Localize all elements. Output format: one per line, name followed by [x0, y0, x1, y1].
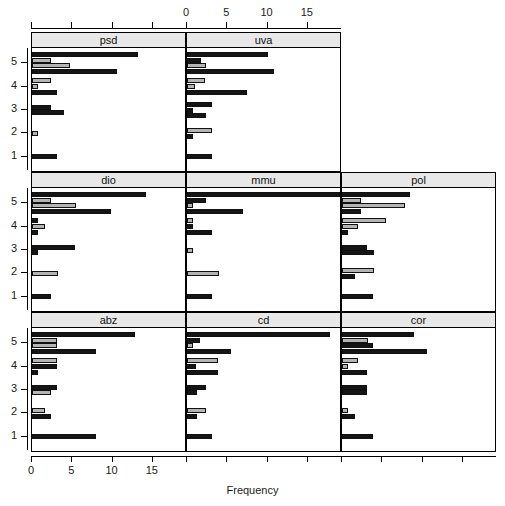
bar — [187, 108, 193, 113]
bar — [32, 271, 58, 276]
panel-plot-psd — [31, 48, 186, 172]
y-tick-label: 5 — [0, 195, 17, 207]
bar — [342, 192, 410, 197]
panel-strip-dio: dio — [31, 172, 186, 188]
y-tickmark — [21, 249, 27, 250]
bar — [32, 230, 38, 235]
panel-strip-abz: abz — [31, 312, 186, 328]
bar — [32, 338, 57, 343]
panel-cd: cd — [186, 312, 341, 452]
bar — [342, 332, 414, 337]
bar — [187, 271, 219, 276]
bar — [32, 408, 45, 413]
bar — [342, 414, 355, 419]
panel-strip-psd: psd — [31, 32, 186, 48]
bar — [342, 268, 374, 273]
bar — [187, 69, 274, 74]
bar — [342, 358, 358, 363]
bar — [187, 434, 212, 439]
panel-dio: dio — [31, 172, 186, 312]
x-tickmark-bottom — [341, 456, 342, 462]
x-tickmark-top-secondary — [31, 22, 32, 28]
x-tick-label-bottom: 10 — [98, 464, 126, 476]
bar — [32, 63, 70, 68]
bar — [342, 224, 358, 229]
y-tickmark — [21, 156, 27, 157]
bar — [187, 364, 196, 369]
panel-uva: uva — [186, 32, 341, 172]
bar — [187, 203, 193, 208]
bar — [32, 343, 57, 348]
y-tickmark — [21, 86, 27, 87]
bar — [187, 414, 197, 419]
bar — [187, 370, 218, 375]
x-tickmark-top-secondary — [71, 22, 72, 28]
x-tickmark-bottom — [186, 456, 187, 462]
bar — [342, 294, 373, 299]
bar — [32, 245, 75, 250]
y-axis-line — [27, 328, 28, 450]
panel-abz: abz — [31, 312, 186, 452]
bar — [187, 192, 340, 197]
bar — [32, 218, 38, 223]
x-tickmark-top — [226, 22, 227, 28]
bar — [187, 385, 206, 390]
bar — [342, 434, 373, 439]
y-tick-label: 3 — [0, 242, 17, 254]
bar — [187, 358, 218, 363]
x-tickmark-top — [307, 22, 308, 28]
x-tickmark-bottom — [152, 456, 153, 462]
bar — [32, 192, 146, 197]
y-tick-label: 5 — [0, 55, 17, 67]
x-tick-label-bottom: 5 — [57, 464, 85, 476]
bar — [187, 332, 330, 337]
bar — [342, 250, 374, 255]
bar — [187, 52, 268, 57]
panel-cor: cor — [341, 312, 496, 452]
bar — [32, 198, 51, 203]
bar — [32, 385, 57, 390]
x-tickmark-top-secondary — [152, 22, 153, 28]
y-tickmark — [21, 366, 27, 367]
y-tick-label: 5 — [0, 335, 17, 347]
x-tickmark-bottom — [462, 456, 463, 462]
bar — [342, 370, 367, 375]
x-tickmark-bottom — [71, 456, 72, 462]
bar — [187, 58, 201, 63]
x-tickmark-bottom — [267, 456, 268, 462]
panel-plot-pol — [341, 188, 496, 312]
bar — [187, 102, 212, 107]
bar — [32, 224, 45, 229]
bar — [187, 90, 247, 95]
y-tickmark — [21, 342, 27, 343]
x-tickmark-top — [267, 22, 268, 28]
bar — [32, 52, 138, 57]
y-tickmark — [21, 272, 27, 273]
bar — [342, 245, 367, 250]
y-tick-label: 3 — [0, 382, 17, 394]
bar — [187, 349, 231, 354]
bar — [342, 408, 348, 413]
panel-plot-cor — [341, 328, 496, 452]
panel-psd: psd — [31, 32, 186, 172]
x-tickmark-bottom — [112, 456, 113, 462]
bar — [32, 209, 111, 214]
x-tickmark-bottom — [226, 456, 227, 462]
bar — [187, 343, 193, 348]
bar — [187, 209, 243, 214]
x-tick-label-bottom: 0 — [17, 464, 45, 476]
bar — [32, 250, 38, 255]
bar — [32, 332, 135, 337]
bar — [342, 364, 348, 369]
y-tick-label: 2 — [0, 405, 17, 417]
bar — [187, 248, 193, 253]
bar — [187, 198, 206, 203]
bar — [187, 113, 206, 118]
bar — [32, 131, 38, 136]
x-tickmark-bottom — [307, 456, 308, 462]
bar — [32, 434, 96, 439]
bar — [342, 209, 361, 214]
panel-strip-cd: cd — [186, 312, 341, 328]
y-tick-label: 2 — [0, 265, 17, 277]
x-axis-title: Frequency — [0, 484, 505, 496]
